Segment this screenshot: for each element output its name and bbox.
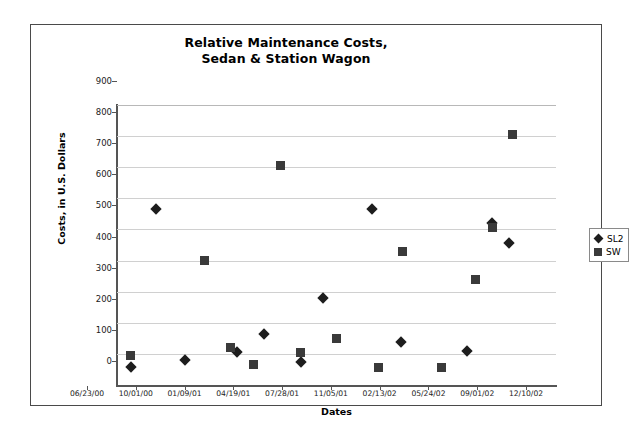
chart-title-line1: Relative Maintenance Costs, (184, 35, 387, 50)
data-point-sl2 (180, 354, 191, 365)
y-axis-title: Costs, in U.S. Dollars (56, 104, 67, 274)
data-point-sl2 (504, 238, 515, 249)
x-axis-line (116, 385, 557, 387)
legend-entry-sw: SW (594, 245, 623, 258)
gridline (117, 136, 556, 137)
y-axis-tick-label: 600 (78, 169, 112, 179)
gridline (117, 292, 556, 293)
data-point-sw (249, 360, 258, 369)
data-point-sw (332, 334, 341, 343)
data-point-sw (200, 256, 209, 265)
x-axis-tickmark (282, 386, 283, 390)
data-point-sw (471, 275, 480, 284)
chart-frame: Relative Maintenance Costs, Sedan & Stat… (30, 24, 602, 406)
y-axis-tick-label: 800 (78, 107, 112, 117)
diamond-marker-icon (594, 234, 604, 244)
x-axis-tickmark (331, 386, 332, 390)
data-point-sl2 (366, 204, 377, 215)
x-axis-tickmark (136, 386, 137, 390)
legend-entry-sl2: SL2 (594, 232, 623, 245)
y-axis-tickmark (112, 81, 117, 82)
data-point-sl2 (318, 292, 329, 303)
plot-area (117, 105, 556, 385)
x-axis-tickmark (380, 386, 381, 390)
y-axis-tick-label: 200 (78, 294, 112, 304)
x-axis-tick-label: 12/10/02 (494, 389, 558, 398)
gridline (117, 198, 556, 199)
y-axis-tick-label: 700 (78, 138, 112, 148)
data-point-sl2 (395, 336, 406, 347)
chart-legend: SL2 SW (589, 228, 629, 262)
data-point-sw (508, 130, 517, 139)
x-axis-tickmark (87, 386, 88, 390)
gridline (117, 105, 556, 106)
y-axis-tick-label: 900 (78, 76, 112, 86)
square-marker-icon (594, 248, 602, 256)
x-axis-tickmark (526, 386, 527, 390)
x-axis-tickmark (185, 386, 186, 390)
x-axis-tickmark (477, 386, 478, 390)
y-axis-tick-label: 0 (78, 356, 112, 366)
gridline (117, 261, 556, 262)
x-axis-tickmark (428, 386, 429, 390)
data-point-sl2 (296, 356, 307, 367)
y-axis-tick-label: 100 (78, 325, 112, 335)
data-point-sw (437, 363, 446, 372)
data-point-sl2 (258, 328, 269, 339)
screenshot-root: Relative Maintenance Costs, Sedan & Stat… (0, 0, 632, 432)
data-point-sw (296, 348, 305, 357)
data-point-sw (374, 363, 383, 372)
gridline (117, 323, 556, 324)
y-axis-tick-label: 400 (78, 232, 112, 242)
data-point-sw (398, 247, 407, 256)
x-axis-title: Dates (117, 406, 556, 417)
data-point-sl2 (150, 204, 161, 215)
data-point-sw (488, 223, 497, 232)
y-axis-tick-labels: 0100200300400500600700800900 (75, 25, 112, 432)
y-axis-tick-label: 300 (78, 263, 112, 273)
data-point-sw (276, 161, 285, 170)
data-point-sw (226, 343, 235, 352)
legend-label-sl2: SL2 (607, 234, 623, 244)
data-point-sw (126, 351, 135, 360)
legend-label-sw: SW (606, 247, 621, 257)
gridline (117, 167, 556, 168)
x-axis-tickmark (233, 386, 234, 390)
y-axis-tick-label: 500 (78, 200, 112, 210)
data-point-sl2 (125, 361, 136, 372)
